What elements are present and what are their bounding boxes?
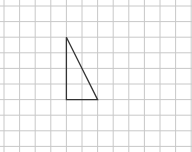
grid-lines	[0, 0, 192, 152]
grid-diagram	[0, 0, 192, 152]
